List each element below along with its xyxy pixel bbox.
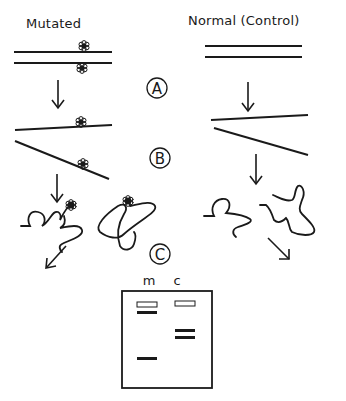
band-m-low [137, 357, 157, 360]
arrow-down-icon [52, 80, 64, 108]
control-double-strand [205, 46, 302, 57]
gel-frame [122, 291, 212, 388]
arrow-down-icon [250, 154, 262, 184]
well-c [175, 301, 195, 306]
arrow-diagonal-icon [268, 238, 289, 259]
control-single-strands [211, 115, 308, 155]
step-a-badge: A [147, 78, 167, 98]
mutated-folded-strands [21, 196, 155, 252]
arrow-down-icon [242, 82, 254, 111]
svg-text:B: B [155, 150, 165, 168]
step-b-badge: B [150, 148, 170, 168]
mutation-marker-icon [66, 200, 76, 211]
arrow-diagonal-icon [46, 246, 66, 268]
gel-electrophoresis: m c [122, 273, 212, 388]
mutation-marker-icon [123, 196, 133, 207]
mutation-marker-icon [79, 41, 89, 52]
svg-text:C: C [155, 246, 165, 264]
band-c-1 [175, 329, 195, 332]
step-c-badge: C [150, 244, 170, 264]
arrow-down-icon [51, 174, 63, 202]
band-c-2 [175, 336, 195, 339]
control-folded-strands [204, 186, 314, 237]
diagram-canvas: A B C [0, 0, 346, 401]
mutated-double-strand [14, 41, 112, 74]
lane-label-m: m [143, 273, 156, 288]
mutated-single-strands [15, 117, 112, 179]
well-m [137, 302, 157, 307]
lane-label-c: c [173, 273, 180, 288]
svg-text:A: A [152, 80, 163, 98]
mutation-marker-icon [77, 63, 87, 74]
band-m-high [137, 311, 157, 314]
